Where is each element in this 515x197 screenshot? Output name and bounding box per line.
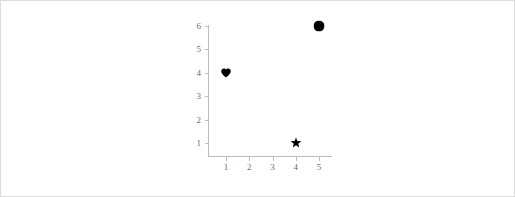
y-tick-mark — [205, 120, 209, 121]
y-tick-mark — [205, 49, 209, 50]
x-tick-label: 5 — [317, 163, 322, 172]
y-tick-label: 6 — [181, 22, 205, 31]
y-tick-mark — [205, 73, 209, 74]
data-point-heart — [221, 67, 232, 78]
plot-area: 123456 12345 — [1, 1, 514, 196]
x-tick-label: 1 — [224, 163, 229, 172]
x-tick-mark — [273, 157, 274, 161]
x-tick-label: 4 — [294, 163, 299, 172]
data-point-star — [290, 137, 302, 149]
y-tick-label: 4 — [181, 68, 205, 77]
y-tick-label: 5 — [181, 45, 205, 54]
x-tick-label: 2 — [247, 163, 252, 172]
y-tick-label: 3 — [181, 92, 205, 101]
figure-frame: 123456 12345 — [0, 0, 515, 197]
y-tick-label: 2 — [181, 115, 205, 124]
y-axis-line — [208, 25, 209, 157]
x-tick-label: 3 — [270, 163, 275, 172]
y-tick-mark — [205, 96, 209, 97]
x-tick-mark — [226, 157, 227, 161]
x-tick-mark — [249, 157, 250, 161]
x-tick-mark — [296, 157, 297, 161]
x-tick-mark — [319, 157, 320, 161]
y-tick-mark — [205, 143, 209, 144]
y-tick-label: 1 — [181, 139, 205, 148]
data-point-circle — [314, 21, 325, 32]
y-tick-mark — [205, 26, 209, 27]
